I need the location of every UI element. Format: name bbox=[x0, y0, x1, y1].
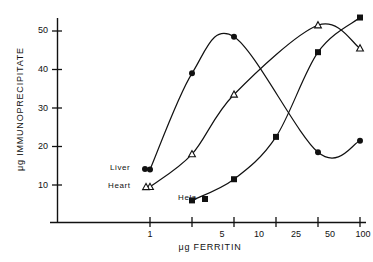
plot-area bbox=[0, 0, 373, 262]
x-tick-label-5: 5 bbox=[209, 229, 235, 239]
data-point-hela bbox=[357, 15, 363, 21]
series-label-liver: Liver bbox=[110, 163, 130, 172]
series-layer bbox=[147, 15, 364, 204]
x-tick-label-50: 50 bbox=[317, 229, 343, 239]
data-point-hela bbox=[315, 49, 321, 55]
y-tick-label-40: 40 bbox=[26, 64, 48, 74]
data-point-liver bbox=[315, 149, 321, 155]
y-tick-label-10: 10 bbox=[26, 180, 48, 190]
data-point-hela bbox=[231, 176, 237, 182]
y-tick-label-30: 30 bbox=[26, 103, 48, 113]
y-axis-title: μg IMMUNOPRECIPITATE bbox=[15, 14, 25, 204]
y-tick-label-50: 50 bbox=[26, 25, 48, 35]
x-tick-label-10: 10 bbox=[246, 229, 272, 239]
data-point-liver bbox=[231, 34, 237, 40]
x-axis-title: μg FERRITIN bbox=[150, 242, 270, 252]
data-point-hela bbox=[273, 134, 279, 140]
x-tick-label-25: 25 bbox=[283, 229, 309, 239]
x-tick-label-1: 1 bbox=[137, 229, 163, 239]
series-hela bbox=[189, 15, 363, 204]
data-point-liver bbox=[357, 138, 363, 144]
series-label-heart: Heart bbox=[108, 181, 131, 190]
legend-marker-hela bbox=[202, 196, 208, 202]
data-point-liver bbox=[189, 70, 195, 76]
y-tick-label-20: 20 bbox=[26, 141, 48, 151]
series-heart bbox=[147, 22, 364, 190]
legend-marker-liver bbox=[142, 166, 148, 172]
chart-figure: μg IMMUNOPRECIPITATE μg FERRITIN 50 40 3… bbox=[0, 0, 373, 262]
series-liver bbox=[147, 33, 363, 172]
axis-lines bbox=[50, 18, 366, 223]
series-label-hela: Hela bbox=[178, 193, 197, 202]
x-tick-label-100: 100 bbox=[350, 229, 373, 239]
